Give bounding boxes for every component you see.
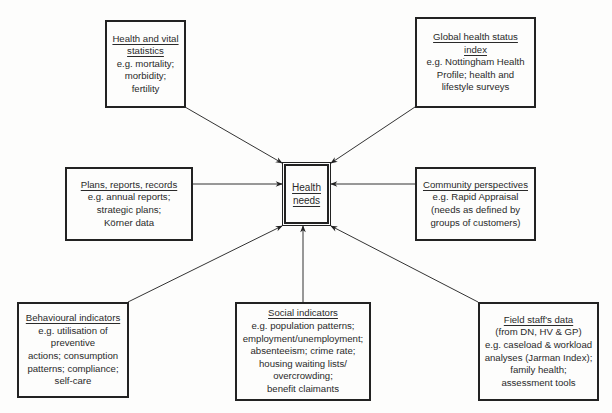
node-body: e.g. Nottingham Health Profile; health a… xyxy=(426,56,524,94)
node-body: (from DN, HV & GP) e.g. caseload & workl… xyxy=(485,326,593,389)
node-body: e.g. Rapid Appraisal (needs as defined b… xyxy=(430,191,520,229)
arrow-global-health xyxy=(331,107,415,163)
center-label-line1: Health xyxy=(292,181,321,194)
node-plans-reports-records: Plans, reports, records e.g. annual repo… xyxy=(65,167,193,241)
node-title: Plans, reports, records xyxy=(81,179,178,192)
node-body: e.g. utilisation of preventive actions; … xyxy=(27,325,118,388)
node-title: Health and vital xyxy=(112,33,178,46)
center-node-health-needs: Health needs xyxy=(282,162,331,226)
node-health-vital-statistics: Health and vital statistics e.g. mortali… xyxy=(105,20,186,108)
node-global-health-status-index: Global health status index e.g. Nottingh… xyxy=(415,17,536,108)
node-title: Field staff's data xyxy=(504,314,573,327)
node-field-staffs-data: Field staff's data (from DN, HV & GP) e.… xyxy=(478,302,599,401)
node-title: Behavioural indicators xyxy=(26,312,120,325)
node-title: Community perspectives xyxy=(423,179,528,192)
node-title: Social indicators xyxy=(268,307,338,320)
node-community-perspectives: Community perspectives e.g. Rapid Apprai… xyxy=(415,167,536,241)
center-label-line2: needs xyxy=(293,194,320,207)
node-body: e.g. population patterns; employment/une… xyxy=(243,320,364,396)
node-social-indicators: Social indicators e.g. population patter… xyxy=(235,302,371,401)
node-title-line2: statistics xyxy=(127,45,164,58)
node-body: e.g. mortality; morbidity; fertility xyxy=(117,58,175,96)
node-body: e.g. annual reports; strategic plans; Kö… xyxy=(88,191,171,229)
node-title-line2: index xyxy=(464,44,487,57)
node-behavioural-indicators: Behavioural indicators e.g. utilisation … xyxy=(17,302,129,398)
node-title: Global health status xyxy=(433,31,518,44)
arrow-health-vital xyxy=(185,107,282,163)
